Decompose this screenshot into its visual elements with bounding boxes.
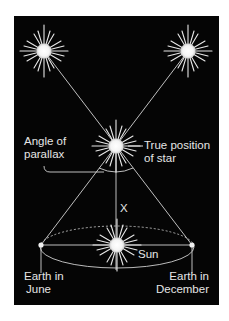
apparent-star-right-icon [164,25,212,77]
earth-december-label: Earth in December [156,270,209,296]
true-position-line1: True position [144,139,210,152]
sun-label: Sun [138,248,158,261]
earth-december-line2: December [156,283,209,296]
earth-december-icon [189,242,194,247]
angle-leader-line [44,166,104,172]
earth-december-line1: Earth in [156,270,209,283]
angle-of-parallax-line2: parallax [24,148,66,161]
earth-june-label: Earth in June [24,270,64,296]
apparent-star-left-icon [20,25,68,77]
angle-of-parallax-line1: Angle of [24,135,66,148]
distance-label: X [120,202,128,215]
earth-june-line1: Earth in [24,270,64,283]
angle-of-parallax-label: Angle of parallax [24,135,66,161]
earth-june-line2: June [24,283,64,296]
true-position-line2: of star [144,152,210,165]
true-position-label: True position of star [144,139,210,165]
earth-june-icon [38,242,43,247]
true-star-icon [92,120,140,172]
